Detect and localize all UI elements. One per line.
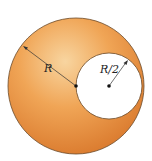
outer-center-dot <box>74 84 78 88</box>
cavity-center-dot <box>107 84 111 88</box>
sphere-with-cavity-diagram: R R/2 <box>0 0 152 161</box>
cavity-radius-label: R/2 <box>99 63 119 76</box>
outer-radius-label: R <box>43 62 52 75</box>
